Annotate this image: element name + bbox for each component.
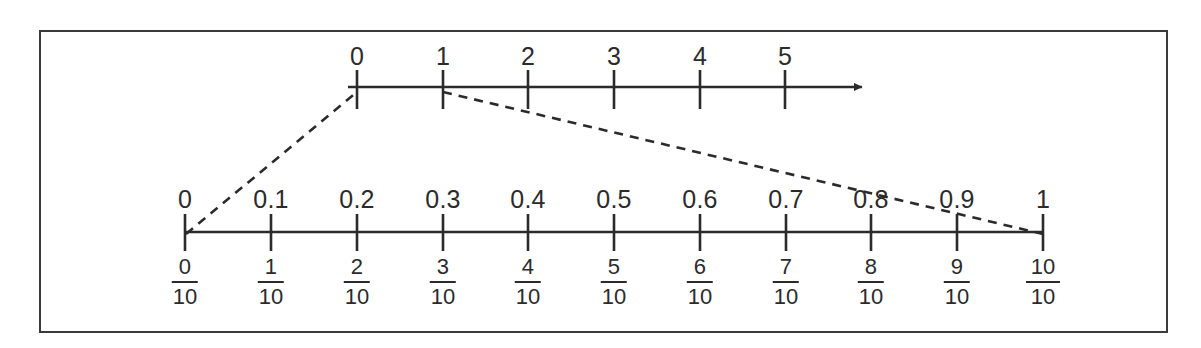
fraction-3-numerator: 3 — [429, 256, 457, 280]
fraction-4-denominator: 10 — [514, 285, 542, 308]
upper-label-1: 1 — [436, 44, 450, 69]
fraction-5: 5 10 — [600, 256, 628, 308]
decimal-label-10: 1 — [1036, 187, 1050, 212]
fraction-2-bar — [344, 281, 370, 283]
upper-label-5: 5 — [778, 44, 792, 69]
fraction-6-numerator: 6 — [686, 256, 714, 280]
fraction-6-denominator: 10 — [686, 285, 714, 308]
fraction-6-bar — [687, 281, 713, 283]
fraction-10: 10 10 — [1026, 256, 1060, 308]
upper-label-2: 2 — [521, 44, 535, 69]
fraction-8: 8 10 — [857, 256, 885, 308]
fraction-0-bar — [172, 281, 198, 283]
fraction-10-denominator: 10 — [1026, 285, 1060, 308]
fraction-9-denominator: 10 — [943, 285, 971, 308]
fraction-2-numerator: 2 — [343, 256, 371, 280]
upper-number-line-group — [348, 70, 862, 109]
fraction-0-denominator: 10 — [171, 285, 199, 308]
fraction-1-bar — [258, 281, 284, 283]
decimal-label-9: 0.9 — [939, 187, 974, 212]
fraction-9-numerator: 9 — [943, 256, 971, 280]
fraction-4-numerator: 4 — [514, 256, 542, 280]
fraction-7-denominator: 10 — [772, 285, 800, 308]
fraction-7-numerator: 7 — [772, 256, 800, 280]
fraction-3-denominator: 10 — [429, 285, 457, 308]
decimal-label-1: 0.1 — [253, 187, 288, 212]
fraction-7: 7 10 — [772, 256, 800, 308]
decimal-label-5: 0.5 — [596, 187, 631, 212]
upper-label-4: 4 — [693, 44, 707, 69]
fraction-8-bar — [858, 281, 884, 283]
fraction-2-denominator: 10 — [343, 285, 371, 308]
fraction-8-denominator: 10 — [857, 285, 885, 308]
decimal-label-7: 0.7 — [768, 187, 803, 212]
fraction-6: 6 10 — [686, 256, 714, 308]
fraction-3-bar — [430, 281, 456, 283]
fraction-9: 9 10 — [943, 256, 971, 308]
upper-tick-marks — [357, 70, 785, 109]
fraction-10-bar — [1026, 281, 1060, 283]
fraction-9-bar — [944, 281, 970, 283]
decimal-label-3: 0.3 — [425, 187, 460, 212]
fraction-0-numerator: 0 — [171, 256, 199, 280]
fraction-10-numerator: 10 — [1026, 256, 1060, 280]
decimal-label-2: 0.2 — [339, 187, 374, 212]
fraction-7-bar — [773, 281, 799, 283]
fraction-0: 0 10 — [171, 256, 199, 308]
decimal-label-4: 0.4 — [510, 187, 545, 212]
upper-label-0: 0 — [350, 44, 364, 69]
fraction-5-denominator: 10 — [600, 285, 628, 308]
fraction-8-numerator: 8 — [857, 256, 885, 280]
fraction-4: 4 10 — [514, 256, 542, 308]
fraction-3: 3 10 — [429, 256, 457, 308]
upper-label-3: 3 — [607, 44, 621, 69]
fraction-1-denominator: 10 — [257, 285, 285, 308]
number-line-figure: 0 1 2 3 4 5 0 0.1 0.2 0.3 0.4 0.5 0.6 0.… — [0, 0, 1201, 348]
lower-number-line-group — [185, 214, 1043, 251]
decimal-label-8: 0.8 — [853, 187, 888, 212]
fraction-2: 2 10 — [343, 256, 371, 308]
decimal-label-0: 0 — [178, 187, 192, 212]
decimal-label-6: 0.6 — [682, 187, 717, 212]
fraction-1: 1 10 — [257, 256, 285, 308]
fraction-4-bar — [515, 281, 541, 283]
fraction-5-numerator: 5 — [600, 256, 628, 280]
fraction-5-bar — [601, 281, 627, 283]
fraction-1-numerator: 1 — [257, 256, 285, 280]
